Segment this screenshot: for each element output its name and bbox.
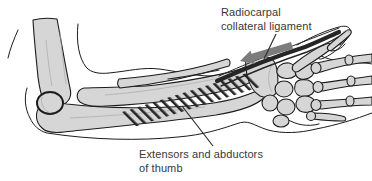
elbow-joint [37, 92, 63, 114]
metacarpal-bones [307, 54, 372, 121]
radiocarpal-ligament-label-line1: Radiocarpal [221, 5, 312, 19]
radiocarpal-ligament-label: Radiocarpal collateral ligament [221, 5, 312, 33]
radiocarpal-ligament-label-line2: collateral ligament [221, 19, 312, 33]
thumb-extensors-label: Extensors and abductors of thumb [139, 147, 263, 175]
thumb-extensors-label-line2: of thumb [139, 161, 263, 175]
anatomy-figure: Radiocarpal collateral ligament Extensor… [0, 0, 372, 181]
thumb-extensors-label-line1: Extensors and abductors [139, 147, 263, 161]
